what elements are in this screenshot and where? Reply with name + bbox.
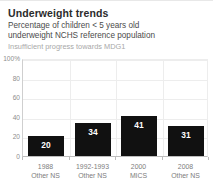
x-axis-category-label: 2000MICS (115, 162, 162, 180)
bar-value-label: 34 (75, 128, 111, 137)
chart-subtitle-line-1: Percentage of children < 5 years old (8, 21, 205, 31)
y-axis-tick-labels: 100%806040200 (0, 59, 22, 157)
x-axis-tick-labels: 1988Other NS1992-1993Other NS2000MICS200… (22, 162, 208, 188)
x-axis-tickmark (69, 157, 70, 160)
x-axis-year: 2008 (162, 162, 209, 171)
bar-value-label: 31 (168, 131, 204, 140)
x-axis-source: Other NS (162, 171, 209, 180)
chart-plot-area: 20344131 (22, 59, 208, 157)
page-title: Underweight trends (8, 7, 205, 19)
chart-card: Underweight trends Percentage of childre… (0, 0, 213, 189)
x-axis-category-label: 1992-1993Other NS (69, 162, 116, 180)
y-axis-tick-label: 80 (13, 76, 20, 82)
chart-annotation-note: Insufficient progress towards MDG1 (0, 42, 213, 51)
bar[interactable]: 34 (75, 123, 111, 156)
bar-value-label: 41 (121, 121, 157, 130)
x-axis-source: Other NS (69, 171, 116, 180)
chart-plot-wrapper: 100%806040200 20344131 1988Other NS1992-… (0, 59, 213, 189)
x-axis-year: 1988 (22, 162, 69, 171)
y-axis-tick-label: 100% (3, 56, 20, 62)
x-axis-tickmark (22, 157, 23, 160)
x-axis-source: Other NS (22, 171, 69, 180)
y-axis-tick-label: 60 (13, 95, 20, 101)
x-axis-category-label: 2008Other NS (162, 162, 209, 180)
x-axis-tickmark (162, 157, 163, 160)
x-axis-year: 2000 (115, 162, 162, 171)
x-axis-year: 1992-1993 (69, 162, 116, 171)
y-axis-tick-label: 40 (13, 115, 20, 121)
bar[interactable]: 20 (28, 136, 64, 156)
bar[interactable]: 31 (168, 126, 204, 156)
x-axis-source: MICS (115, 171, 162, 180)
bar-value-label: 20 (28, 141, 64, 150)
chart-header: Underweight trends Percentage of childre… (0, 1, 213, 40)
bar[interactable]: 41 (121, 116, 157, 156)
chart-subtitle-line-2: underweight NCHS reference population (8, 31, 205, 41)
bars-group: 20344131 (23, 60, 207, 156)
x-axis-category-label: 1988Other NS (22, 162, 69, 180)
x-axis-tickmark (208, 157, 209, 160)
y-axis-tick-label: 20 (13, 134, 20, 140)
y-axis-tick-label: 0 (16, 154, 20, 160)
x-axis-tickmark (115, 157, 116, 160)
